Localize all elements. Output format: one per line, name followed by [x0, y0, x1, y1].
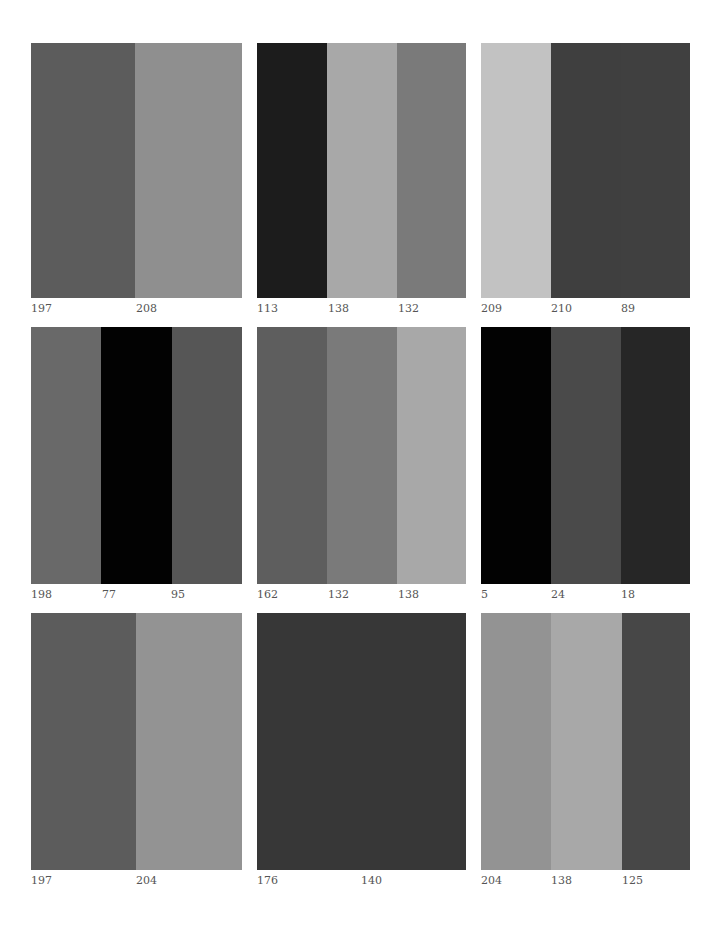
band-value-label: 77 [102, 588, 116, 601]
band-value-label: 125 [622, 874, 643, 887]
color-panel-6 [481, 327, 690, 584]
color-panel-3 [481, 43, 690, 298]
color-band [101, 327, 172, 584]
band-value-label: 197 [31, 302, 52, 315]
band-value-label: 176 [257, 874, 278, 887]
color-band [31, 327, 101, 584]
band-value-label: 197 [31, 874, 52, 887]
color-band [481, 43, 551, 298]
band-value-label: 210 [551, 302, 572, 315]
color-band [257, 327, 327, 584]
color-band [136, 613, 242, 870]
color-panel-5 [257, 327, 466, 584]
color-band [551, 613, 622, 870]
band-value-label: 140 [361, 874, 382, 887]
color-band [327, 327, 397, 584]
band-value-label: 138 [551, 874, 572, 887]
band-value-label: 204 [136, 874, 157, 887]
color-band [397, 43, 466, 298]
band-value-label: 24 [551, 588, 565, 601]
color-band [621, 43, 690, 298]
color-band [257, 43, 327, 298]
color-panel-2 [257, 43, 466, 298]
color-panel-4 [31, 327, 242, 584]
color-band [551, 327, 621, 584]
band-value-label: 5 [481, 588, 488, 601]
color-band [622, 613, 690, 870]
color-band [481, 613, 551, 870]
band-value-label: 209 [481, 302, 502, 315]
color-band [135, 43, 242, 298]
band-value-label: 198 [31, 588, 52, 601]
color-panel-8 [257, 613, 466, 870]
color-panel-1 [31, 43, 242, 298]
color-band [257, 613, 466, 870]
color-band [172, 327, 242, 584]
color-band [31, 43, 135, 298]
band-value-label: 162 [257, 588, 278, 601]
color-band [481, 327, 551, 584]
color-band [327, 43, 397, 298]
color-panel-7 [31, 613, 242, 870]
band-value-label: 138 [328, 302, 349, 315]
color-band [551, 43, 621, 298]
color-band [621, 327, 690, 584]
band-value-label: 138 [398, 588, 419, 601]
band-value-label: 132 [398, 302, 419, 315]
color-panel-9 [481, 613, 690, 870]
band-value-label: 204 [481, 874, 502, 887]
color-band [31, 613, 136, 870]
band-value-label: 208 [136, 302, 157, 315]
band-value-label: 95 [171, 588, 185, 601]
band-value-label: 132 [328, 588, 349, 601]
band-value-label: 113 [257, 302, 278, 315]
band-value-label: 89 [621, 302, 635, 315]
band-value-label: 18 [621, 588, 635, 601]
color-band [397, 327, 466, 584]
